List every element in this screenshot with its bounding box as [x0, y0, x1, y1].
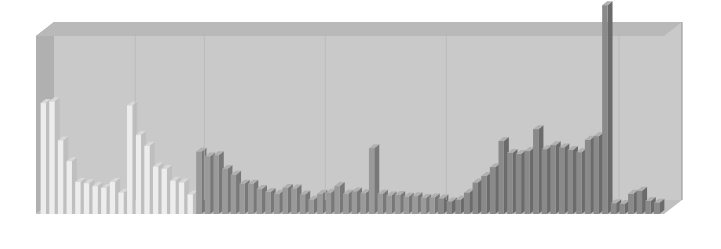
bar-front [499, 141, 504, 214]
bar-front [110, 182, 115, 214]
bar-front [334, 186, 339, 214]
bar-front [188, 194, 193, 214]
bar-front [369, 148, 374, 214]
bar-front [67, 161, 72, 214]
bar-front [412, 196, 417, 214]
bar-front [75, 182, 80, 214]
bar-front [162, 169, 167, 214]
bar-front [283, 188, 288, 214]
chart-root [0, 0, 721, 249]
bar-front [447, 202, 452, 214]
bar-front [559, 148, 564, 214]
bar-front [352, 191, 357, 214]
bar-front [386, 196, 391, 214]
bar-front [257, 189, 262, 214]
bar-front [585, 140, 590, 214]
bar-front [542, 149, 547, 214]
bar-front [490, 167, 495, 214]
bar-front [550, 145, 555, 214]
bar-front [144, 146, 149, 214]
bar-front [516, 154, 521, 214]
bar-front [127, 105, 132, 214]
bar-front [49, 101, 54, 214]
bar-front [153, 167, 158, 214]
bar-front [378, 194, 383, 214]
bar-front [421, 198, 426, 214]
bar-front [41, 103, 46, 214]
bar-front [300, 194, 305, 214]
bar-front [611, 203, 616, 214]
bar-front [239, 184, 244, 214]
bar-front [360, 193, 365, 214]
bar-front [92, 186, 97, 214]
bar-front [58, 140, 63, 214]
bar-front [524, 151, 529, 214]
bar-front [231, 175, 236, 214]
bar-front [196, 152, 201, 214]
bar-front [403, 197, 408, 214]
bar-front [317, 194, 322, 214]
bar-front [265, 192, 270, 214]
bar-front [170, 181, 175, 214]
bar[interactable] [602, 1, 612, 214]
bar-front [438, 199, 443, 214]
bar-front [101, 188, 106, 214]
bar-front [248, 184, 253, 214]
bar-front [213, 155, 218, 214]
bar-front [291, 188, 296, 214]
bar-front [628, 194, 633, 214]
bar-front [576, 152, 581, 214]
bar-front [455, 200, 460, 214]
bar-front [326, 193, 331, 214]
bar-front [308, 200, 313, 214]
bar-front [654, 203, 659, 214]
bar-chart-3d [0, 0, 721, 249]
bar-front [136, 135, 141, 214]
chart-ceiling [36, 22, 682, 36]
bar-front [395, 195, 400, 214]
bar-front [507, 153, 512, 214]
bar-front [179, 183, 184, 214]
bar-front [481, 176, 486, 214]
bar-front [429, 197, 434, 214]
bar-front [222, 169, 227, 214]
bar-front [533, 129, 538, 214]
bar-front [464, 193, 469, 214]
bar-front [568, 150, 573, 214]
bar-front [645, 201, 650, 214]
bar-front [602, 5, 607, 214]
bar-front [118, 193, 123, 214]
bar-front [343, 194, 348, 214]
bar-front [84, 183, 89, 214]
bar-side [608, 1, 613, 214]
bar-front [619, 204, 624, 214]
bar-front [274, 194, 279, 214]
bar-front [205, 156, 210, 214]
bar-front [594, 136, 599, 214]
bar-front [473, 183, 478, 214]
bar-front [637, 191, 642, 214]
